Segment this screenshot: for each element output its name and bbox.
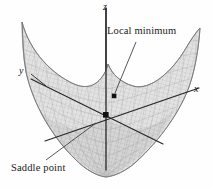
saddle-point-marker (103, 112, 109, 118)
x-axis-label: x (194, 84, 198, 94)
y-axis-label: y (19, 66, 23, 76)
saddle-point-label: Saddle point (11, 163, 66, 174)
z-axis-label: z (103, 2, 107, 12)
saddle-surface-figure: z y x Local minimum Saddle point (0, 0, 213, 189)
local-minimum-marker (112, 94, 117, 99)
local-minimum-label: Local minimum (107, 26, 176, 37)
